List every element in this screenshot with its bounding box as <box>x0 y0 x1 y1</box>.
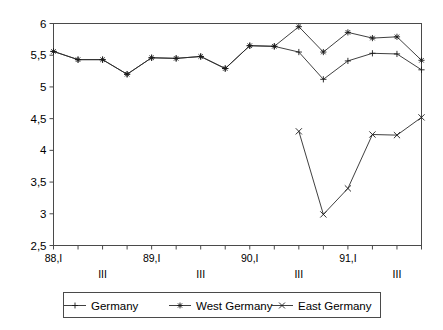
data-point-asterisk <box>296 24 302 30</box>
series-line <box>54 46 422 80</box>
data-point-asterisk <box>394 34 400 40</box>
y-tick-label: 4,5 <box>31 113 47 125</box>
data-point-cross <box>345 185 351 191</box>
data-point-asterisk <box>247 43 253 49</box>
data-point-plus <box>394 51 400 57</box>
x-tick-label-quarter: III <box>393 268 402 280</box>
axis-labels-layer: 65,554,543,532,588,I89,I90,I91,IIIIIIIII… <box>31 18 402 280</box>
chart-legend: GermanyWest GermanyEast Germany <box>64 293 381 318</box>
data-point-asterisk <box>345 29 351 35</box>
legend-label: West Germany <box>196 300 273 312</box>
x-tick-label-year: 89,I <box>143 252 161 264</box>
series-layer <box>50 24 424 218</box>
y-tick-label: 3,5 <box>31 176 47 188</box>
data-point-asterisk <box>50 48 56 54</box>
line-chart: 65,554,543,532,588,I89,I90,I91,IIIIIIIII… <box>0 0 443 330</box>
data-point-asterisk <box>222 65 228 71</box>
y-tick-label: 2,5 <box>31 240 47 252</box>
y-tick-label: 4 <box>40 144 47 156</box>
x-tick-label-year: 90,I <box>241 252 259 264</box>
legend-label: Germany <box>91 300 139 312</box>
chart-figure: 65,554,543,532,588,I89,I90,I91,IIIIIIIII… <box>0 0 443 330</box>
data-point-asterisk <box>173 55 179 61</box>
y-tick-label: 5,5 <box>31 49 47 61</box>
x-tick-label-year: 91,I <box>339 252 357 264</box>
data-point-plus <box>369 50 375 56</box>
y-tick-label: 5 <box>40 81 46 93</box>
series-line <box>299 117 422 214</box>
data-point-asterisk <box>99 57 105 63</box>
data-point-asterisk <box>198 53 204 59</box>
x-tick-label-quarter: III <box>98 268 107 280</box>
data-point-asterisk <box>124 71 130 77</box>
series-west-germany <box>50 24 424 78</box>
series-line <box>54 27 422 75</box>
data-point-cross <box>320 211 326 217</box>
series-east-germany <box>296 114 425 217</box>
data-point-plus <box>418 67 424 73</box>
x-tick-label-quarter: III <box>294 268 303 280</box>
data-point-asterisk <box>75 57 81 63</box>
x-tick-label-year: 88,I <box>45 252 63 264</box>
data-point-asterisk <box>320 49 326 55</box>
y-tick-label: 6 <box>40 18 46 30</box>
legend-label: East Germany <box>298 300 372 312</box>
data-point-cross <box>296 128 302 134</box>
data-point-asterisk <box>418 57 424 63</box>
axes-layer <box>50 24 422 250</box>
data-point-asterisk <box>149 55 155 61</box>
x-tick-label-quarter: III <box>196 268 205 280</box>
data-point-asterisk <box>271 43 277 49</box>
data-point-asterisk <box>177 303 183 309</box>
data-point-asterisk <box>369 35 375 41</box>
y-tick-label: 3 <box>40 208 46 220</box>
